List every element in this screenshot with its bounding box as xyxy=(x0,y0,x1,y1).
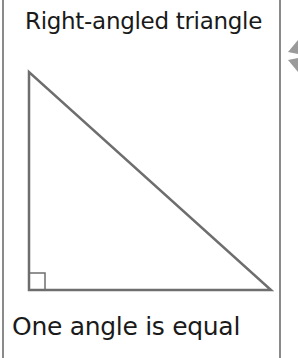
caption-text: One angle is equal xyxy=(12,312,240,341)
next-card-edge-icon xyxy=(285,38,298,78)
right-angle-marker xyxy=(29,273,45,290)
